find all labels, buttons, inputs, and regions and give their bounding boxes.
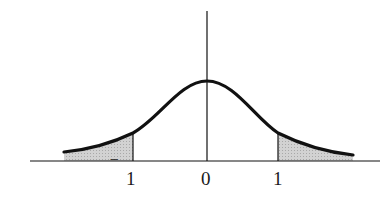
bell-curve: [64, 81, 353, 155]
label-minus-one: 1: [126, 168, 136, 189]
label-plus-one: 1: [273, 168, 283, 189]
label-zero: 0: [201, 168, 211, 189]
normal-curve-diagram: ‾ 1 0 1: [0, 0, 389, 197]
label-minus-one-bar: ‾: [110, 157, 118, 178]
